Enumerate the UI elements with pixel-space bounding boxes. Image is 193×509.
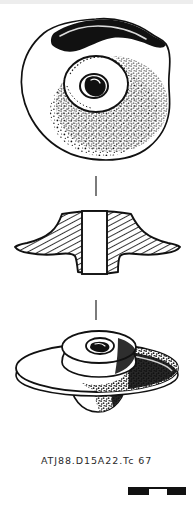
- object-drawing-figure: [0, 0, 193, 509]
- scale-bar: [128, 487, 186, 495]
- section-perforation-channel: [82, 211, 107, 274]
- plan-view: [21, 19, 169, 160]
- scale-bar-segment: [149, 489, 167, 495]
- perspective-view: [16, 331, 178, 412]
- illustration-plate: ATJ88.D15A22.Tc 67: [0, 0, 193, 509]
- object-caption: ATJ88.D15A22.Tc 67: [0, 455, 193, 466]
- cross-section-view: [15, 211, 180, 274]
